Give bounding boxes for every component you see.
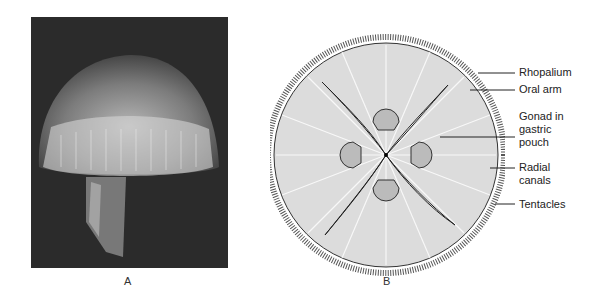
label-radial-canals: Radial canals [519, 161, 564, 187]
label-oral-arm: Oral arm [519, 83, 562, 96]
label-rhopalium: Rhopalium [519, 66, 572, 79]
label-tentacles: Tentacles [519, 198, 565, 211]
label-gonad: Gonad in gastric pouch [519, 110, 579, 149]
